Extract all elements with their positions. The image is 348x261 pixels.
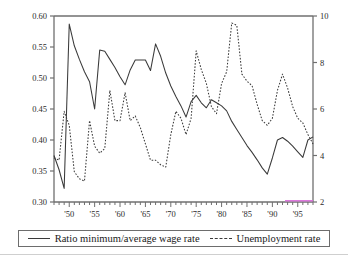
axis-left-tick-label: 0.40	[32, 135, 47, 145]
axis-x-tick-label: '60	[115, 209, 125, 219]
axis-x-tick-label: '55	[90, 209, 100, 219]
legend-label-unemployment: Unemployment rate	[237, 233, 321, 244]
axis-right-tick-label: 6	[320, 104, 324, 114]
chart-legend: Ratio minimum/average wage rate Unemploy…	[18, 230, 330, 247]
axis-left-tick-label: 0.55	[32, 42, 47, 52]
legend-label-ratio: Ratio minimum/average wage rate	[55, 233, 200, 244]
legend-swatch-dashed-line	[210, 238, 232, 239]
axis-left-tick-label: 0.50	[32, 73, 47, 83]
axis-x-tick-label: '90	[267, 209, 277, 219]
axis-right-tick-label: 8	[320, 58, 324, 68]
axis-right-tick-label: 2	[320, 197, 324, 207]
series-line-ratio	[54, 24, 313, 188]
legend-entry-ratio: Ratio minimum/average wage rate	[28, 233, 200, 244]
axis-right-tick-label: 10	[320, 11, 329, 21]
legend-swatch-solid-line	[28, 238, 50, 239]
axis-x-tick-label: '85	[242, 209, 252, 219]
axis-x-tick-label: '70	[166, 209, 176, 219]
axis-left-tick-label: 0.60	[32, 11, 47, 21]
axis-x-tick-label: '80	[217, 209, 227, 219]
axis-left-tick-label: 0.45	[32, 104, 47, 114]
axis-left-tick-label: 0.35	[32, 166, 47, 176]
caption-divider	[0, 254, 348, 255]
chart-figure: 0.300.350.400.450.500.550.60246810'50'55…	[0, 0, 348, 261]
axis-right-tick-label: 4	[320, 151, 325, 161]
legend-entry-unemployment: Unemployment rate	[210, 233, 321, 244]
dual-axis-line-chart: 0.300.350.400.450.500.550.60246810'50'55…	[0, 0, 348, 225]
axis-x-tick-label: '95	[293, 209, 303, 219]
axis-left-tick-label: 0.30	[32, 197, 47, 207]
axis-x-tick-label: '50	[64, 209, 74, 219]
axis-x-tick-label: '75	[191, 209, 201, 219]
axis-x-tick-label: '65	[140, 209, 150, 219]
